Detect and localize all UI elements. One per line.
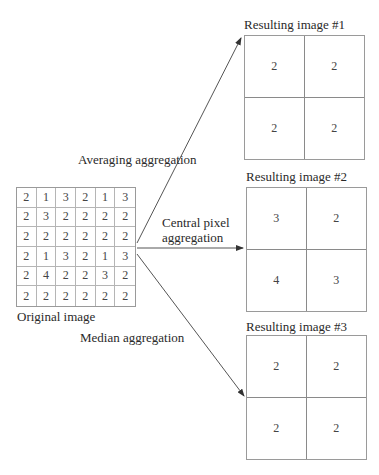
grid-cell: 2 <box>76 267 96 287</box>
grid-cell: 1 <box>96 247 116 267</box>
grid-cell: 2 <box>17 286 37 306</box>
grid-cell: 2 <box>76 208 96 228</box>
grid-cell: 2 <box>17 267 37 287</box>
grid-cell: 2 <box>17 247 37 267</box>
grid-cell: 4 <box>247 250 307 312</box>
result-1-title: Resulting image #1 <box>244 18 345 32</box>
grid-cell: 2 <box>307 188 367 250</box>
grid-cell: 2 <box>115 208 135 228</box>
grid-cell: 1 <box>37 247 57 267</box>
grid-cell: 2 <box>115 267 135 287</box>
grid-cell: 2 <box>56 227 76 247</box>
grid-cell: 2 <box>115 286 135 306</box>
grid-cell: 3 <box>96 267 116 287</box>
grid-cell: 1 <box>37 188 57 208</box>
original-image-caption: Original image <box>17 310 95 324</box>
grid-cell: 2 <box>76 247 96 267</box>
grid-cell: 3 <box>307 250 367 312</box>
grid-cell: 2 <box>56 208 76 228</box>
grid-cell: 3 <box>56 247 76 267</box>
result-2-grid: 3 2 4 3 <box>246 187 367 312</box>
grid-cell: 2 <box>76 286 96 306</box>
central-pixel-label-line1: Central pixel <box>162 216 230 230</box>
grid-cell: 3 <box>115 188 135 208</box>
grid-cell: 2 <box>247 336 307 398</box>
original-image-grid: 2 1 3 2 1 3 2 3 2 2 2 2 2 2 2 2 2 2 2 1 … <box>16 187 136 307</box>
grid-cell: 2 <box>37 227 57 247</box>
grid-cell: 2 <box>245 36 305 98</box>
grid-cell: 2 <box>307 336 367 398</box>
grid-cell: 2 <box>247 398 307 460</box>
grid-cell: 2 <box>305 36 365 98</box>
grid-cell: 3 <box>56 188 76 208</box>
grid-cell: 2 <box>96 227 116 247</box>
grid-cell: 2 <box>115 227 135 247</box>
grid-cell: 2 <box>76 227 96 247</box>
arrow-median <box>137 254 244 396</box>
grid-cell: 4 <box>37 267 57 287</box>
grid-cell: 2 <box>17 227 37 247</box>
grid-cell: 2 <box>56 286 76 306</box>
result-1-grid: 2 2 2 2 <box>244 35 365 160</box>
grid-cell: 2 <box>307 398 367 460</box>
central-pixel-label-line2: aggregation <box>162 231 223 245</box>
median-label: Median aggregation <box>80 331 184 345</box>
grid-cell: 3 <box>247 188 307 250</box>
grid-cell: 2 <box>37 286 57 306</box>
grid-cell: 1 <box>96 188 116 208</box>
result-2-title: Resulting image #2 <box>246 170 347 184</box>
grid-cell: 2 <box>245 98 305 160</box>
grid-cell: 3 <box>37 208 57 228</box>
grid-cell: 2 <box>96 286 116 306</box>
averaging-label: Averaging aggregation <box>78 153 197 167</box>
grid-cell: 2 <box>17 208 37 228</box>
grid-cell: 3 <box>115 247 135 267</box>
grid-cell: 2 <box>76 188 96 208</box>
grid-cell: 2 <box>17 188 37 208</box>
result-3-grid: 2 2 2 2 <box>246 335 367 460</box>
result-3-title: Resulting image #3 <box>246 320 347 334</box>
grid-cell: 2 <box>96 208 116 228</box>
arrow-averaging <box>137 38 241 243</box>
grid-cell: 2 <box>305 98 365 160</box>
grid-cell: 2 <box>56 267 76 287</box>
